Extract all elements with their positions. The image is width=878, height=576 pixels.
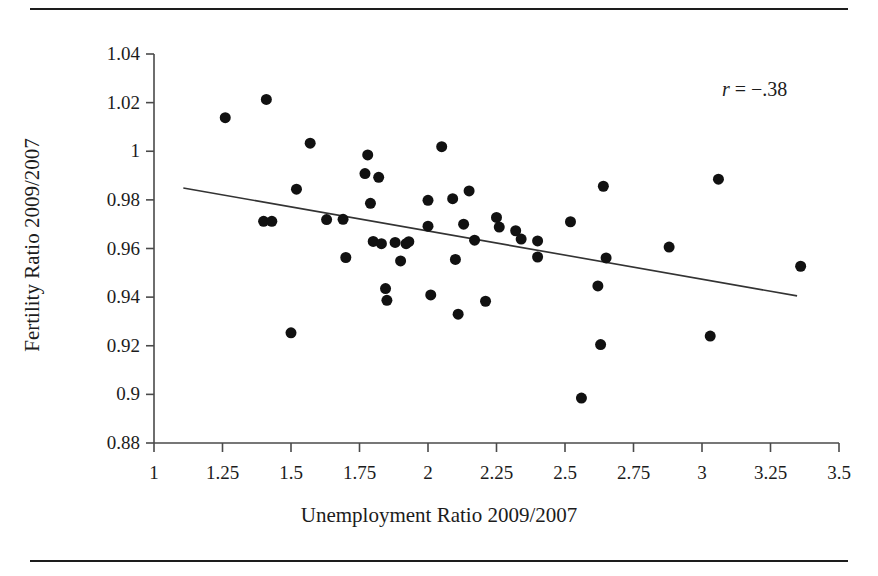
- x-axis-tick-label: 3.5: [799, 463, 878, 482]
- data-point: [494, 222, 505, 233]
- y-axis-title-wrap: Fertility Ratio 2009/2007: [18, 40, 46, 450]
- correlation-value: −.38: [751, 78, 787, 100]
- data-point: [598, 181, 609, 192]
- data-point: [380, 283, 391, 294]
- data-point: [376, 238, 387, 249]
- y-axis-tick-label: 1.04: [40, 44, 140, 63]
- data-point: [458, 219, 469, 230]
- data-point: [220, 112, 231, 123]
- data-point: [390, 237, 401, 248]
- correlation-symbol: r: [722, 78, 730, 100]
- data-point: [261, 94, 272, 105]
- data-point: [532, 252, 543, 263]
- data-point: [795, 261, 806, 272]
- trendline: [183, 188, 797, 296]
- data-point: [705, 331, 716, 342]
- data-point: [447, 193, 458, 204]
- data-point: [291, 184, 302, 195]
- data-point: [664, 242, 675, 253]
- data-point: [359, 168, 370, 179]
- data-point: [340, 252, 351, 263]
- data-point: [373, 172, 384, 183]
- correlation-relation: =: [735, 78, 746, 100]
- trendline-layer: [183, 188, 797, 296]
- data-point: [565, 216, 576, 227]
- data-point: [423, 221, 434, 232]
- correlation-annotation: r = −.38: [722, 78, 787, 101]
- data-point: [595, 339, 606, 350]
- data-point: [453, 309, 464, 320]
- data-point: [516, 234, 527, 245]
- data-point: [491, 212, 502, 223]
- y-axis-title: Fertility Ratio 2009/2007: [22, 138, 43, 352]
- y-axis-tick-label: 0.88: [40, 433, 140, 452]
- data-point: [532, 235, 543, 246]
- data-point: [403, 236, 414, 247]
- y-axis-tick-label: 0.94: [40, 287, 140, 306]
- data-point: [592, 280, 603, 291]
- data-point: [266, 216, 277, 227]
- data-point: [425, 289, 436, 300]
- data-point: [469, 235, 480, 246]
- figure-container: 0.880.90.920.940.960.9811.021.0411.251.5…: [0, 0, 878, 576]
- data-points-layer: [220, 94, 806, 404]
- data-point: [576, 393, 587, 404]
- data-point: [338, 214, 349, 225]
- data-point: [713, 174, 724, 185]
- data-point: [381, 295, 392, 306]
- scatter-plot: 0.880.90.920.940.960.9811.021.0411.251.5…: [0, 0, 878, 576]
- data-point: [464, 185, 475, 196]
- axes-layer: [146, 54, 839, 452]
- data-point: [601, 252, 612, 263]
- data-point: [362, 149, 373, 160]
- data-point: [450, 254, 461, 265]
- data-point: [395, 255, 406, 266]
- y-axis-tick-label: 0.92: [40, 336, 140, 355]
- data-point: [436, 141, 447, 152]
- data-point: [321, 214, 332, 225]
- y-axis-tick-label: 0.9: [40, 384, 140, 403]
- data-point: [365, 198, 376, 209]
- data-point: [423, 195, 434, 206]
- y-axis-tick-label: 1: [40, 141, 140, 160]
- y-axis-tick-label: 0.96: [40, 239, 140, 258]
- data-point: [480, 296, 491, 307]
- data-point: [286, 327, 297, 338]
- data-point: [305, 138, 316, 149]
- y-axis-tick-label: 1.02: [40, 93, 140, 112]
- y-axis-tick-label: 0.98: [40, 190, 140, 209]
- x-axis-title: Unemployment Ratio 2009/2007: [0, 505, 878, 526]
